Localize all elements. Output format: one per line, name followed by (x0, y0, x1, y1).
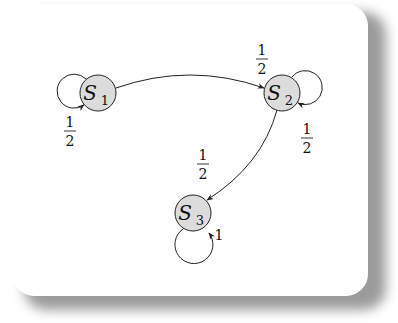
edge-s2-s3-den: 2 (199, 166, 208, 182)
edge-s2-s2-num: 1 (303, 121, 312, 137)
edge-s3-s3-label: 1 (215, 227, 224, 243)
svg-text:S: S (267, 81, 281, 105)
edge-s1-s1-den: 2 (66, 133, 75, 149)
state-diagram: 1 2 1 2 1 2 1 2 1 S 1 S 2 S (0, 0, 398, 323)
edge-s3-s3: 1 (175, 227, 224, 264)
edge-s1-s2: 1 2 (116, 42, 268, 88)
svg-text:2: 2 (285, 93, 293, 108)
edge-s2-s3: 1 2 (197, 110, 277, 200)
edge-s1-s2-den: 2 (258, 61, 267, 77)
edge-s1-s1-num: 1 (66, 114, 75, 130)
edge-s2-s3-num: 1 (199, 147, 208, 163)
svg-text:3: 3 (196, 213, 204, 228)
node-s1: S 1 (80, 75, 116, 111)
node-s3: S 3 (175, 195, 211, 231)
svg-text:1: 1 (101, 93, 109, 108)
svg-text:S: S (178, 201, 192, 225)
edge-s1-s2-num: 1 (258, 42, 267, 58)
node-s2: S 2 (264, 75, 300, 111)
svg-text:S: S (83, 81, 97, 105)
edge-s2-s2-den: 2 (303, 140, 312, 156)
